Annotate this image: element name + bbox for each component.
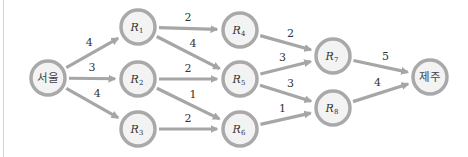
route-graph: 43424212233154 서울R1R2R3R4R5R6R7R8제주	[0, 0, 468, 157]
node-R3: R3	[121, 112, 155, 146]
node-seoul: 서울	[31, 61, 65, 95]
edge-seoul-R2	[69, 78, 115, 79]
node-R4: R4	[223, 13, 257, 47]
edge-seoul-R3	[66, 88, 118, 117]
node-R8: R8	[316, 91, 350, 125]
edge-weight-label: 3	[287, 77, 294, 90]
edge-R1-R4	[159, 28, 217, 30]
edge-weight-label: 4	[190, 37, 197, 50]
node-R5: R5	[223, 62, 257, 96]
edge-R5-R8	[260, 85, 311, 101]
node-R7: R7	[316, 39, 350, 73]
edge-weight-label: 2	[185, 112, 192, 125]
node-label: 서울	[37, 71, 59, 85]
edge-weight-label: 2	[185, 62, 192, 75]
node-label: 제주	[419, 70, 441, 84]
edge-R4-R7	[260, 36, 311, 50]
node-R2: R2	[121, 62, 155, 96]
edge-weight-label: 4	[94, 87, 101, 100]
edge-R7-jeju	[354, 60, 408, 72]
edge-weight-label: 4	[86, 36, 93, 49]
edge-weight-label: 1	[279, 102, 286, 115]
node-jeju: 제주	[413, 60, 447, 94]
edge-weight-label: 3	[279, 51, 286, 64]
edge-weight-label: 1	[190, 88, 197, 101]
edge-weight-label: 2	[287, 27, 294, 40]
node-R1: R1	[121, 10, 155, 44]
edge-weight-label: 4	[374, 76, 381, 89]
node-R6: R6	[223, 112, 257, 146]
edge-weight-label: 2	[185, 11, 192, 24]
edge-weight-label: 3	[89, 61, 96, 74]
edge-R6-R8	[260, 113, 310, 124]
edge-weight-label: 5	[382, 50, 389, 63]
